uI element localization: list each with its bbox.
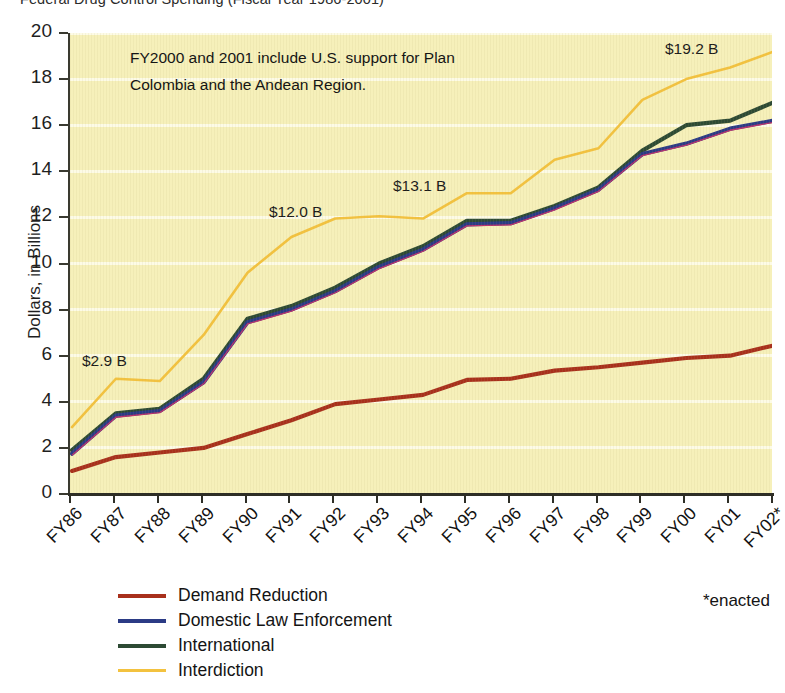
x-tick-mark-FY92 bbox=[332, 494, 334, 503]
y-tick-mark-8 bbox=[59, 309, 68, 311]
annotation-3: $19.2 B bbox=[665, 40, 718, 58]
y-tick-mark-16 bbox=[59, 124, 68, 126]
y-tick-mark-12 bbox=[59, 216, 68, 218]
x-tick-mark-FY89 bbox=[201, 494, 203, 503]
x-tick-mark-FY97 bbox=[552, 494, 554, 503]
annotation-0: $2.9 B bbox=[82, 352, 127, 370]
legend-item-demand-reduction[interactable]: Demand Reduction bbox=[118, 583, 618, 608]
y-tick-mark-0 bbox=[59, 493, 68, 495]
footnote: *enacted bbox=[703, 591, 770, 611]
y-tick-label-6: 6 bbox=[10, 343, 52, 365]
series-line-domestic-law-enforcement-edge bbox=[72, 122, 772, 455]
series-line-interdiction bbox=[72, 51, 772, 427]
x-tick-mark-FY01 bbox=[727, 494, 729, 503]
y-tick-label-20: 20 bbox=[10, 20, 52, 42]
callout-line-2: Colombia and the Andean Region. bbox=[130, 71, 455, 98]
y-tick-label-4: 4 bbox=[10, 389, 52, 411]
legend-label-3: Interdiction bbox=[178, 660, 264, 681]
y-tick-mark-2 bbox=[59, 447, 68, 449]
x-tick-mark-FY98 bbox=[596, 494, 598, 503]
plot-area: $2.9 B$12.0 B$13.1 B$19.2 B bbox=[68, 33, 772, 494]
legend-item-domestic-law-enforcement[interactable]: Domestic Law Enforcement bbox=[118, 608, 618, 633]
y-tick-label-2: 2 bbox=[10, 435, 52, 457]
x-tick-mark-FY93 bbox=[376, 494, 378, 503]
x-tick-mark-FY95 bbox=[464, 494, 466, 503]
callout-note: FY2000 and 2001 include U.S. support for… bbox=[130, 44, 455, 98]
legend: Demand ReductionDomestic Law Enforcement… bbox=[118, 583, 618, 683]
chart-title: Federal Drug Control Spending (Fiscal Ye… bbox=[20, 0, 384, 7]
x-tick-mark-FY91 bbox=[288, 494, 290, 503]
legend-label-1: Domestic Law Enforcement bbox=[178, 610, 392, 631]
y-tick-label-14: 14 bbox=[10, 158, 52, 180]
x-tick-mark-FY90 bbox=[245, 494, 247, 503]
x-tick-mark-FY02 bbox=[771, 494, 773, 503]
legend-swatch-2 bbox=[118, 644, 166, 648]
callout-line-1: FY2000 and 2001 include U.S. support for… bbox=[130, 44, 455, 71]
y-tick-label-10: 10 bbox=[10, 251, 52, 273]
legend-label-2: International bbox=[178, 635, 274, 656]
y-tick-label-18: 18 bbox=[10, 66, 52, 88]
series-lines bbox=[70, 33, 772, 494]
y-tick-label-12: 12 bbox=[10, 204, 52, 226]
annotation-2: $13.1 B bbox=[393, 177, 446, 195]
y-tick-mark-18 bbox=[59, 78, 68, 80]
legend-swatch-1 bbox=[118, 619, 166, 623]
x-tick-mark-FY94 bbox=[420, 494, 422, 503]
y-tick-mark-6 bbox=[59, 355, 68, 357]
y-tick-mark-10 bbox=[59, 263, 68, 265]
x-tick-mark-FY99 bbox=[639, 494, 641, 503]
legend-swatch-3 bbox=[118, 669, 166, 672]
annotation-1: $12.0 B bbox=[269, 203, 322, 221]
x-tick-mark-FY00 bbox=[683, 494, 685, 503]
legend-label-0: Demand Reduction bbox=[178, 585, 328, 606]
y-tick-mark-14 bbox=[59, 170, 68, 172]
x-tick-mark-FY96 bbox=[508, 494, 510, 503]
y-tick-mark-20 bbox=[59, 32, 68, 34]
series-line-domestic-law-enforcement bbox=[72, 121, 772, 454]
legend-swatch-0 bbox=[118, 594, 166, 598]
x-tick-mark-FY86 bbox=[69, 494, 71, 503]
y-tick-label-8: 8 bbox=[10, 297, 52, 319]
x-tick-mark-FY87 bbox=[113, 494, 115, 503]
legend-item-international[interactable]: International bbox=[118, 633, 618, 658]
x-tick-mark-FY88 bbox=[157, 494, 159, 503]
y-tick-label-16: 16 bbox=[10, 112, 52, 134]
legend-item-interdiction[interactable]: Interdiction bbox=[118, 658, 618, 683]
y-tick-mark-4 bbox=[59, 401, 68, 403]
y-tick-label-0: 0 bbox=[10, 481, 52, 503]
